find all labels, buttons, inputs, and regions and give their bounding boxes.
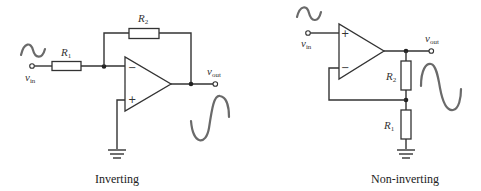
resistor-r1 [52, 62, 81, 71]
plus-sign: + [128, 94, 136, 105]
resistor-r1 [401, 110, 411, 139]
output-sine-wave-icon [421, 64, 461, 110]
caption-non-inverting: Non-inverting [371, 172, 439, 187]
r1-label: R1 [383, 119, 395, 133]
output-sine-wave-icon [191, 96, 229, 140]
ground-icon [108, 150, 126, 158]
input-terminal [306, 31, 311, 36]
r2-label: R2 [385, 70, 397, 84]
input-terminal [30, 64, 35, 69]
wire [159, 33, 191, 84]
r1-label: R1 [60, 46, 72, 60]
output-terminal [213, 82, 218, 87]
vin-label: vin [25, 71, 36, 85]
r2-label: R2 [137, 12, 149, 26]
non-inverting-amplifier-circuit: vin + − vout R2 R1 [297, 7, 461, 158]
vout-label: vout [207, 65, 221, 79]
resistor-r2 [401, 61, 411, 90]
vout-label: vout [425, 32, 439, 46]
op-amp-circuits-diagram: vin R1 R2 − + vout [0, 0, 481, 191]
minus-sign: − [128, 62, 136, 73]
caption-inverting: Inverting [95, 172, 139, 187]
output-node [189, 82, 194, 87]
wire [117, 100, 125, 149]
output-terminal [429, 49, 434, 54]
plus-sign: + [341, 28, 349, 39]
vin-label: vin [301, 37, 312, 51]
input-sine-wave-icon [297, 7, 321, 20]
inverting-amplifier-circuit: vin R1 R2 − + vout [21, 12, 229, 158]
input-sine-wave-icon [21, 45, 45, 57]
resistor-r2 [129, 29, 159, 39]
ground-icon [397, 150, 415, 158]
minus-sign: − [341, 62, 349, 73]
